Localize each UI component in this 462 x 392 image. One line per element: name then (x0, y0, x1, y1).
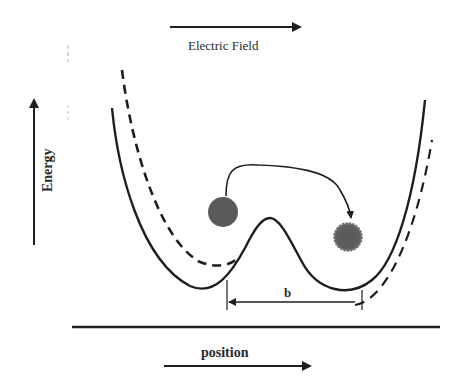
potential-curve-dashed-right (355, 140, 432, 305)
hop-arrow (226, 165, 351, 218)
distance-label: b (284, 285, 291, 300)
potential-curve-dashed (122, 70, 238, 265)
final-particle (334, 223, 362, 251)
position-label: position (201, 345, 249, 360)
electric-field-label: Electric Field (188, 38, 259, 53)
potential-curve-solid (112, 100, 425, 290)
energy-axis-label: Energy (40, 148, 55, 192)
initial-particle (208, 197, 238, 227)
energy-diagram: Electric Field Energy b position (0, 0, 462, 392)
